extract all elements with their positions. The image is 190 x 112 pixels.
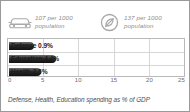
bar-label-health: Health 2.5%	[11, 68, 47, 75]
x-axis: 0 5 10 15 20 25	[7, 77, 185, 88]
bar-label-defense: Defense 0.9%	[11, 42, 53, 49]
x-tick-0: 0	[8, 77, 11, 83]
x-tick-10: 10	[75, 77, 82, 83]
plot-area: Defense 0.9% Education 4.4% Health 2.5%	[7, 38, 185, 77]
bar-chart: Defense 0.9% Education 4.4% Health 2.5% …	[7, 38, 185, 88]
x-tick-15: 15	[110, 77, 117, 83]
chart-caption: Defense, Health, Education spending as %…	[8, 96, 186, 103]
x-tick-5: 5	[41, 77, 44, 83]
bar-label-education: Education 4.4%	[11, 55, 59, 62]
x-tick-20: 20	[146, 77, 153, 83]
infographic-panel: 107 per 1000 population 137 per 1000 pop…	[0, 0, 190, 112]
car-icon	[7, 11, 33, 33]
stat-telephones: 137 per 1000 population	[96, 7, 185, 37]
stat-vehicles-label: 107 per 1000 population	[33, 14, 73, 29]
bar-row-education: Education 4.4%	[8, 52, 184, 65]
stats-row: 107 per 1000 population 137 per 1000 pop…	[7, 7, 185, 37]
telephone-circle-icon	[96, 11, 122, 33]
x-tick-25: 25	[178, 77, 185, 83]
stat-telephones-label: 137 per 1000 population	[122, 14, 162, 29]
stat-vehicles: 107 per 1000 population	[7, 7, 96, 37]
bar-row-defense: Defense 0.9%	[8, 39, 184, 52]
